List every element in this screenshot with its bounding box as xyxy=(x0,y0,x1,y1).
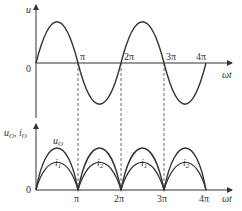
dashed-guides xyxy=(78,63,164,190)
top-y-label: u xyxy=(26,4,31,15)
bottom-tick-2pi: 2π xyxy=(114,193,124,204)
bottom-y-label: uO, iO xyxy=(4,127,27,140)
bottom-origin-label: 0 xyxy=(26,184,31,195)
top-tick-pi: π xyxy=(80,51,85,62)
i1-label-first: i1 xyxy=(55,157,61,170)
bottom-x-label: ωt xyxy=(222,193,232,204)
uo-curve-label: uO xyxy=(53,135,63,148)
full-wave-rectifier-waveform-diagram: u 0 π 2π 3π 4π ωt uO, iO uO i1 i2 i1 i2 … xyxy=(0,0,242,211)
top-tick-3pi: 3π xyxy=(166,51,176,62)
bottom-tick-pi: π xyxy=(74,193,79,204)
top-tick-4pi: 4π xyxy=(196,51,206,62)
i2-label-second: i2 xyxy=(183,157,190,170)
top-tick-2pi: 2π xyxy=(124,51,134,62)
i2-label-first: i2 xyxy=(97,157,104,170)
i1-label-second: i1 xyxy=(141,157,147,170)
top-origin-label: 0 xyxy=(26,63,31,74)
top-x-label: ωt xyxy=(222,69,232,80)
bottom-plot: uO, iO uO i1 i2 i1 i2 0 π 2π 3π 4π ωt xyxy=(4,124,232,204)
bottom-tick-4pi: 4π xyxy=(199,193,209,204)
top-plot: u 0 π 2π 3π 4π ωt xyxy=(26,4,232,118)
bottom-tick-3pi: 3π xyxy=(157,193,167,204)
